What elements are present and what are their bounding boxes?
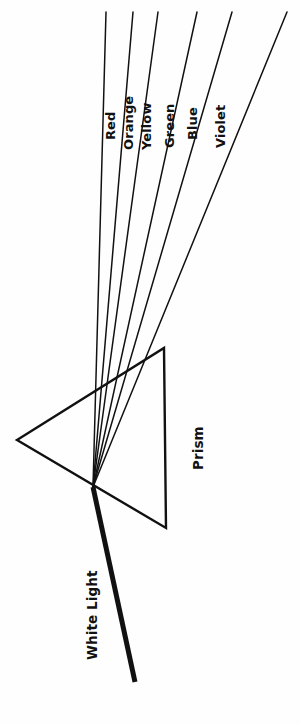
- ray-green: [93, 12, 197, 487]
- dispersed-ray-group: [93, 12, 287, 487]
- ray-blue: [93, 12, 232, 487]
- white-light-label: White Light: [86, 571, 100, 661]
- ray-label-violet: Violet: [214, 105, 227, 148]
- ray-label-yellow: Yellow: [140, 103, 153, 151]
- ray-yellow: [93, 12, 158, 487]
- prism-outline: [17, 348, 166, 528]
- prism-label: Prism: [192, 426, 206, 470]
- prism-dispersion-figure: Red Orange Yellow Green Blue Violet Pris…: [0, 0, 300, 725]
- ray-violet: [93, 12, 287, 487]
- ray-label-red: Red: [104, 112, 117, 140]
- ray-label-green: Green: [163, 104, 176, 148]
- ray-label-blue: Blue: [186, 107, 199, 140]
- ray-label-orange: Orange: [122, 96, 135, 150]
